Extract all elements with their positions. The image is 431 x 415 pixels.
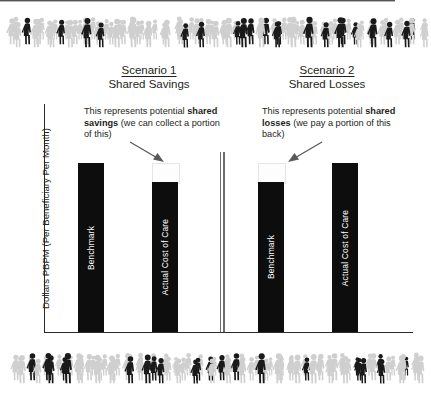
scenario-1-actual-cost-bar-label: Actual Cost of Care	[160, 219, 170, 295]
crowd-graphic-bottom	[0, 344, 431, 388]
callout-2-arrow-icon	[282, 140, 324, 170]
scenario-1-heading: Scenario 1 Shared Savings	[74, 64, 224, 91]
scenario-1-subtitle: Shared Savings	[74, 78, 224, 92]
scenario-1-benchmark-bar-label: Benchmark	[86, 225, 96, 269]
scenario-2-subtitle: Shared Losses	[252, 78, 402, 92]
scenario-2-actual-cost-bar: Actual Cost of Care	[332, 163, 358, 332]
scenario-1-shared-savings-gap	[152, 163, 180, 184]
scenario-2-title: Scenario 2	[252, 64, 402, 78]
callout-2-lead: This represents potential	[262, 106, 363, 116]
scenario-2-benchmark-bar-label: Benchmark	[266, 235, 276, 279]
scenario-2-actual-cost-bar-label: Actual Cost of Care	[340, 209, 350, 285]
scenario-2-benchmark-bar: Benchmark	[258, 182, 284, 332]
scenario-2-callout: This represents potential shared losses …	[262, 106, 398, 141]
scenario-2-heading: Scenario 2 Shared Losses	[252, 64, 402, 91]
callout-1-lead: This represents potential	[84, 106, 185, 116]
y-axis-label: Dollars PBPM (Per Beneficiary Per Month)	[40, 104, 51, 334]
scenario-2-shared-losses-gap	[258, 163, 286, 184]
scenario-1-callout: This represents potential shared savings…	[84, 106, 220, 141]
scenario-1-title: Scenario 1	[74, 64, 224, 78]
infographic-canvas: Scenario 1 Shared Savings Scenario 2 Sha…	[0, 0, 431, 415]
scenario-1-benchmark-bar: Benchmark	[78, 163, 104, 332]
footer-divider-line-shadow	[0, 1, 395, 2]
scenario-1-actual-cost-bar: Actual Cost of Care	[152, 182, 178, 332]
crowd-graphic-top	[0, 4, 431, 52]
scenario-divider	[220, 152, 225, 332]
